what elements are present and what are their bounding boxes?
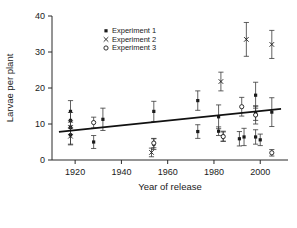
marker-exp3 [240,105,244,109]
data-point [195,125,200,139]
x-tick-label: 1960 [158,167,178,177]
data-point [269,98,274,127]
y-axis-title: Larvae per plant [4,53,15,122]
chart-container: 01020304019201940196019802000Year of rel… [0,0,297,228]
series-3 [91,97,274,156]
marker-exp1 [104,29,107,32]
scatter-plot: 01020304019201940196019802000Year of rel… [0,0,297,228]
x-axis-title: Year of release [138,181,202,192]
y-tick-label: 30 [35,47,45,57]
marker-exp1 [254,94,257,97]
x-tick-label: 1920 [65,167,85,177]
y-tick-label: 40 [35,11,45,21]
data-point [216,105,221,129]
legend-item-3[interactable]: Experiment 3 [104,43,156,52]
legend-label-3: Experiment 3 [112,43,156,52]
marker-exp3 [152,141,156,145]
marker-exp3 [254,113,258,117]
y-tick-label: 0 [40,155,45,165]
marker-exp1 [270,111,273,114]
data-point [216,127,221,136]
marker-exp1 [259,138,262,141]
marker-exp1 [196,130,199,133]
data-point [218,72,223,91]
data-point [258,134,263,146]
data-point [253,130,258,144]
data-point [269,150,274,156]
marker-exp2 [104,37,109,42]
data-point [253,106,258,124]
marker-exp1 [217,130,220,133]
data-point [151,138,156,147]
data-point [237,132,242,146]
marker-exp3 [92,120,96,124]
y-tick-label: 10 [35,119,45,129]
marker-exp1 [238,137,241,140]
marker-exp1 [152,110,155,113]
data-point [253,82,258,108]
marker-exp3 [270,151,274,155]
y-tick-label: 20 [35,83,45,93]
x-tick-label: 1980 [204,167,224,177]
data-point [221,132,226,141]
data-point [195,91,200,110]
marker-exp1 [196,99,199,102]
data-point [244,22,249,56]
marker-exp3 [104,46,108,50]
trend-line [59,109,281,132]
data-point [151,101,156,121]
plot-axes [52,16,288,160]
marker-exp1 [242,135,245,138]
marker-exp1 [101,118,104,121]
marker-exp1 [92,140,95,143]
data-point [241,128,246,145]
marker-exp3 [221,135,225,139]
data-point [269,30,274,58]
data-point [91,136,96,149]
data-point [91,117,96,128]
x-tick-label: 2000 [250,167,270,177]
marker-exp1 [254,135,257,138]
x-tick-label: 1940 [111,167,131,177]
